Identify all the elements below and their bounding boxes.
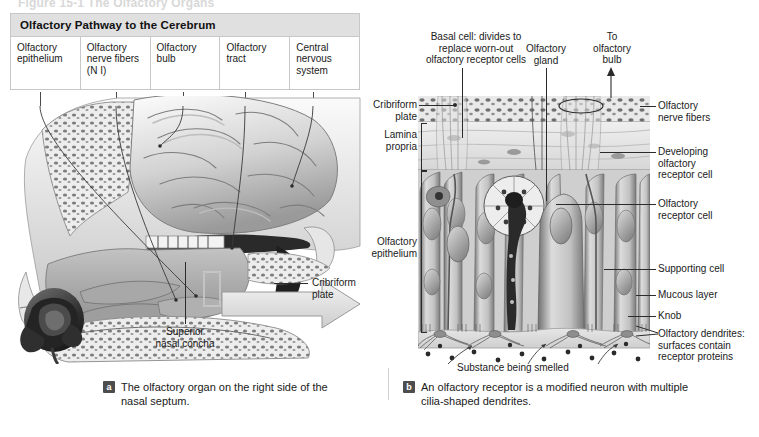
- caption-panel-b: bAn olfactory receptor is a modified neu…: [403, 381, 703, 408]
- olfactory-pathway-table: Olfactory Pathway to the Cerebrum Olfact…: [10, 13, 360, 90]
- pathway-cell-olfactory-bulb: Olfactory bulb: [151, 37, 221, 89]
- label-olfactory-epithelium-panel-b: Olfactory epithelium: [352, 236, 417, 259]
- label-substance-being-smelled: Substance being smelled: [457, 362, 569, 374]
- leader-dot-cribriform-plate: [453, 103, 457, 107]
- pathway-cell-central-nervous-system: Central nervous system: [290, 37, 359, 89]
- leader-basal-cell: [462, 68, 463, 138]
- panel-a-badge: a: [103, 381, 115, 393]
- arrow-to-olfactory-bulb: [598, 66, 624, 98]
- bracket-olfactory-epithelium: [421, 171, 427, 333]
- label-developing-olfactory-receptor-cell: Developing olfactory receptor cell: [658, 146, 712, 181]
- panel-b-illustration: [418, 96, 650, 364]
- panel-a-illustration: [8, 96, 368, 364]
- leader-developing-olfactory-receptor-cell: [600, 152, 656, 153]
- leader-cribriform-plate-panel-b: [419, 105, 455, 106]
- panel-b-badge: b: [403, 381, 415, 393]
- label-mucous-layer: Mucous layer: [658, 289, 717, 301]
- label-superior-nasal-concha: Superior nasal concha: [140, 326, 230, 349]
- leader-olfactory-gland: [546, 68, 547, 201]
- bracket-lamina-propria: [421, 123, 427, 171]
- panel-divider: [388, 368, 389, 400]
- label-cribriform-plate-panel-a: Cribriform plate: [312, 277, 356, 300]
- label-knob: Knob: [658, 310, 681, 322]
- leader-supporting-cell: [604, 269, 656, 270]
- leader-olfactory-dendrites: [636, 322, 658, 338]
- figure-top-caption: Figure 15-1 The Olfactory Organs: [18, 0, 214, 10]
- pathway-cell-olfactory-epithelium: Olfactory epithelium: [11, 37, 81, 89]
- label-olfactory-dendrites: Olfactory dendrites: surfaces contain re…: [658, 328, 745, 363]
- leader-knob: [628, 316, 656, 317]
- label-supporting-cell: Supporting cell: [658, 263, 724, 275]
- label-lamina-propria: Lamina propria: [355, 129, 417, 152]
- label-olfactory-nerve-fibers: Olfactory nerve fibers: [658, 100, 710, 123]
- leader-superior-nasal-concha: [185, 262, 186, 324]
- label-to-olfactory-bulb: To olfactory bulb: [581, 31, 643, 66]
- label-olfactory-receptor-cell: Olfactory receptor cell: [658, 198, 712, 221]
- pathway-table-title: Olfactory Pathway to the Cerebrum: [11, 14, 359, 37]
- leader-cribriform-plate-panel-a: [274, 283, 308, 284]
- caption-panel-a-text: The olfactory organ on the right side of…: [121, 381, 336, 408]
- caption-panel-a: aThe olfactory organ on the right side o…: [103, 381, 353, 408]
- pathway-cell-olfactory-nerve-fibers: Olfactory nerve fibers (N I): [81, 37, 151, 89]
- leader-mucous-layer: [636, 295, 656, 296]
- leader-olfactory-receptor-cell: [556, 204, 656, 205]
- pathway-cell-olfactory-tract: Olfactory tract: [220, 37, 290, 89]
- caption-panel-b-text: An olfactory receptor is a modified neur…: [421, 381, 691, 408]
- label-cribriform-plate-panel-b: Cribriform plate: [355, 99, 417, 122]
- label-olfactory-gland: Olfactory gland: [515, 43, 577, 66]
- pathway-table-row: Olfactory epithelium Olfactory nerve fib…: [11, 37, 359, 89]
- leader-olfactory-nerve-fibers: [640, 106, 656, 107]
